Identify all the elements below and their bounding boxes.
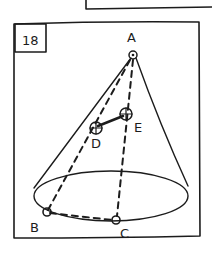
label-e: E — [134, 120, 142, 135]
point-b — [43, 208, 51, 216]
segment-ab — [48, 60, 130, 210]
label-c: C — [120, 226, 129, 241]
segment-ac — [117, 60, 133, 216]
label-a: A — [127, 30, 136, 45]
label-b: B — [30, 220, 39, 235]
figure-number: 18 — [22, 33, 39, 48]
cone-left-edge — [34, 58, 131, 188]
cone-base — [34, 171, 188, 221]
point-c — [112, 216, 120, 224]
label-d: D — [91, 136, 101, 151]
point-a-dot — [132, 54, 135, 57]
cone-diagram: 18 A D E B C — [0, 0, 212, 255]
panel-frame — [14, 22, 200, 238]
previous-panel-border — [86, 0, 212, 9]
cone-right-edge — [136, 58, 188, 186]
